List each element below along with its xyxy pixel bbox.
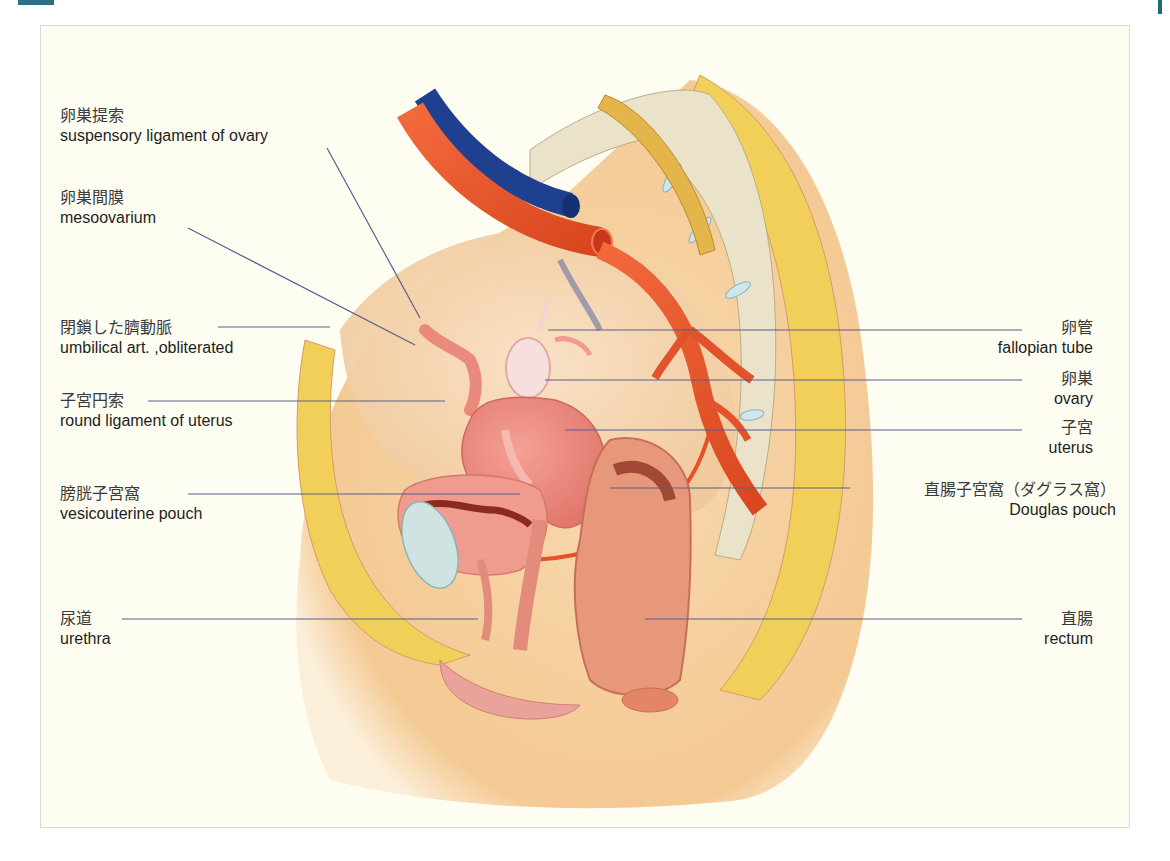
rectum-shape — [575, 438, 691, 695]
label-ja: 卵巣間膜 — [60, 188, 156, 208]
label-ja: 卵巣 — [1054, 369, 1093, 389]
label-round-ligament: 子宮円索 round ligament of uterus — [60, 391, 233, 431]
label-en: mesoovarium — [60, 208, 156, 228]
label-en: vesicouterine pouch — [60, 504, 202, 524]
label-urethra: 尿道 urethra — [60, 609, 111, 649]
label-en: umbilical art. ,obliterated — [60, 338, 233, 358]
label-uterus: 子宮 uterus — [1049, 418, 1093, 458]
label-ovary: 卵巣 ovary — [1054, 369, 1093, 409]
label-ja: 尿道 — [60, 609, 111, 629]
label-ja: 膀胱子宮窩 — [60, 484, 202, 504]
label-ja: 閉鎖した臍動脈 — [60, 318, 233, 338]
label-en: rectum — [1044, 629, 1093, 649]
label-en: ovary — [1054, 389, 1093, 409]
label-suspensory-ligament: 卵巣提索 suspensory ligament of ovary — [60, 106, 268, 146]
label-umbilical-artery: 閉鎖した臍動脈 umbilical art. ,obliterated — [60, 318, 233, 358]
label-fallopian-tube: 卵管 fallopian tube — [998, 318, 1093, 358]
label-ja: 子宮円索 — [60, 391, 233, 411]
label-en: suspensory ligament of ovary — [60, 126, 268, 146]
label-en: urethra — [60, 629, 111, 649]
label-en: Douglas pouch — [924, 500, 1116, 520]
label-en: uterus — [1049, 438, 1093, 458]
label-ja: 直腸 — [1044, 609, 1093, 629]
label-ja: 卵巣提索 — [60, 106, 268, 126]
label-vesicouterine-pouch: 膀胱子宮窩 vesicouterine pouch — [60, 484, 202, 524]
label-ja: 卵管 — [998, 318, 1093, 338]
label-mesoovarium: 卵巣間膜 mesoovarium — [60, 188, 156, 228]
label-en: round ligament of uterus — [60, 411, 233, 431]
label-rectum: 直腸 rectum — [1044, 609, 1093, 649]
label-en: fallopian tube — [998, 338, 1093, 358]
label-ja: 子宮 — [1049, 418, 1093, 438]
label-douglas-pouch: 直腸子宮窩（ダグラス窩） Douglas pouch — [924, 480, 1116, 520]
label-ja: 直腸子宮窩（ダグラス窩） — [924, 480, 1116, 500]
ovary-shape — [506, 338, 550, 398]
